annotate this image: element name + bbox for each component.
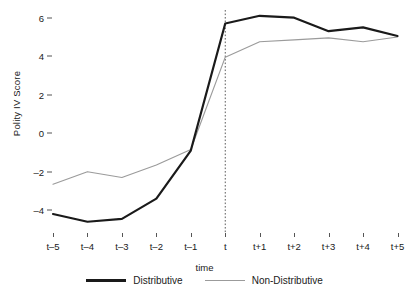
legend-swatch-non-distributive-icon — [205, 280, 245, 281]
x-axis-title: time — [0, 262, 409, 273]
legend-label-non-distributive: Non-Distributive — [252, 275, 323, 286]
chart-legend: Distributive Non-Distributive — [0, 275, 409, 286]
plot-area — [0, 0, 409, 294]
chart-container: Polity IV Score 6420–2–4 t–5t–4t–3t–2t–1… — [0, 0, 409, 294]
legend-swatch-distributive-icon — [86, 279, 126, 281]
legend-label-distributive: Distributive — [133, 275, 182, 286]
legend-item-distributive: Distributive — [86, 275, 182, 286]
legend-item-non-distributive: Non-Distributive — [205, 275, 323, 286]
